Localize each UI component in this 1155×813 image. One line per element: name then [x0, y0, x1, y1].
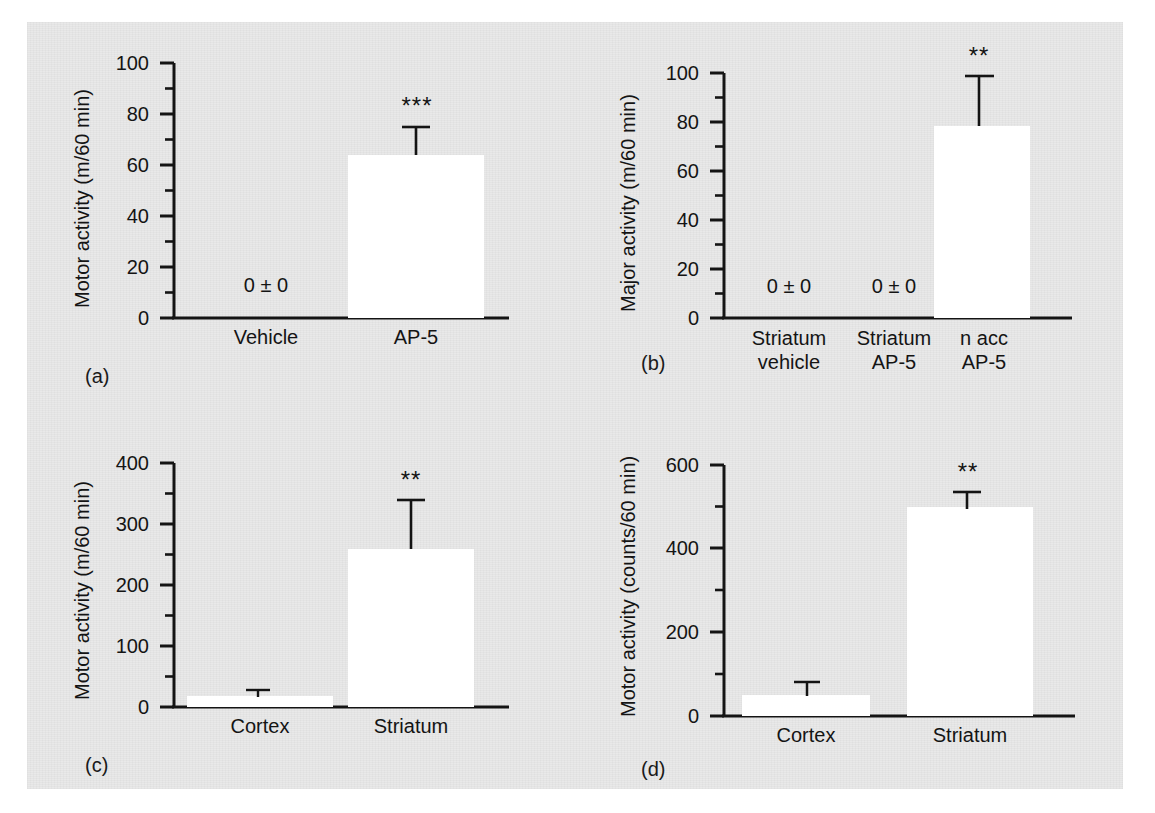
panel-c-ytick-label-200: 200	[72, 574, 149, 597]
scan-page-background: Motor activity (m/60 min) 100 80 60 40 2…	[27, 22, 1123, 789]
panel-b-ytick-label-80: 80	[637, 111, 699, 134]
panel-d-ytick-label-600: 600	[622, 454, 699, 477]
panel-d-bar-cortex	[742, 695, 870, 716]
panel-b-annotation-striatum-ap5: 0 ± 0	[837, 275, 951, 298]
panel-a-ytick-label-100: 100	[87, 52, 149, 75]
panel-b-annotation-striatum-vehicle: 0 ± 0	[732, 275, 846, 298]
panel-c-category-cortex: Cortex	[195, 715, 325, 738]
panel-d: Motor activity (counts/60 min) 600 400 2…	[567, 420, 1087, 740]
panel-a-ytick-label-60: 60	[87, 154, 149, 177]
panel-b-tag: (b)	[641, 352, 665, 375]
panel-d-bar-striatum	[907, 507, 1033, 716]
panel-b-ytick-label-60: 60	[637, 160, 699, 183]
panel-d-y-axis-title: Motor activity (counts/60 min)	[617, 456, 640, 717]
panel-b-ytick-label-20: 20	[637, 258, 699, 281]
panel-d-significance-striatum: **	[931, 460, 1005, 484]
panel-a-tag: (a)	[85, 365, 109, 388]
panel-c-ytick-label-100: 100	[72, 635, 149, 658]
panel-b-ytick-label-100: 100	[637, 62, 699, 85]
panel-d-category-striatum: Striatum	[905, 724, 1035, 747]
panel-c-tag: (c)	[85, 754, 108, 777]
panel-a-category-vehicle: Vehicle	[201, 326, 331, 349]
panel-b-category-striatum-ap5-line1: Striatum	[857, 327, 931, 349]
panel-c-ytick-label-0: 0	[72, 696, 149, 719]
panel-a-ytick-label-40: 40	[87, 205, 149, 228]
panel-c-bar-striatum	[348, 549, 474, 707]
panel-b-category-striatum-vehicle-line1: Striatum	[752, 327, 826, 349]
panel-d-ytick-label-0: 0	[622, 705, 699, 728]
panel-a-ytick-label-0: 0	[87, 307, 149, 330]
panel-d-category-cortex: Cortex	[741, 724, 871, 747]
panel-b-category-nacc-ap5-line2: AP-5	[925, 350, 1043, 374]
panel-d-tag: (d)	[641, 758, 665, 781]
panel-a-bar-ap5	[348, 155, 484, 318]
panel-a-annotation-vehicle: 0 ± 0	[201, 274, 331, 297]
panel-a-ytick-label-20: 20	[87, 256, 149, 279]
panel-b-category-nacc-ap5: n acc AP-5	[925, 326, 1043, 375]
panel-c-bar-cortex	[187, 696, 333, 707]
panel-b-significance-nacc: **	[942, 44, 1016, 68]
panel-a-category-ap5: AP-5	[351, 326, 481, 349]
panel-b-ytick-label-0: 0	[637, 307, 699, 330]
panel-b-category-striatum-vehicle: Striatum vehicle	[730, 326, 848, 375]
panel-c-category-striatum: Striatum	[346, 715, 476, 738]
panel-d-ytick-label-200: 200	[622, 621, 699, 644]
panel-b-category-striatum-vehicle-line2: vehicle	[730, 350, 848, 374]
panel-b-category-nacc-ap5-line1: n acc	[960, 327, 1008, 349]
panel-c: Motor activity (m/60 min) 400 300 200 10…	[27, 420, 527, 740]
panel-c-significance-striatum: **	[372, 468, 450, 492]
panel-c-ytick-label-400: 400	[72, 452, 149, 475]
panel-a-significance-ap5: ***	[372, 94, 462, 118]
panel-b-ytick-label-40: 40	[637, 209, 699, 232]
panel-a: Motor activity (m/60 min) 100 80 60 40 2…	[27, 22, 527, 342]
panel-a-ytick-label-80: 80	[87, 103, 149, 126]
panel-b: Major activity (m/60 min) 100 80 60 40 2…	[567, 22, 1087, 342]
panel-d-ytick-label-400: 400	[622, 537, 699, 560]
panel-c-ytick-label-300: 300	[72, 513, 149, 536]
figure-root: Motor activity (m/60 min) 100 80 60 40 2…	[0, 0, 1155, 813]
